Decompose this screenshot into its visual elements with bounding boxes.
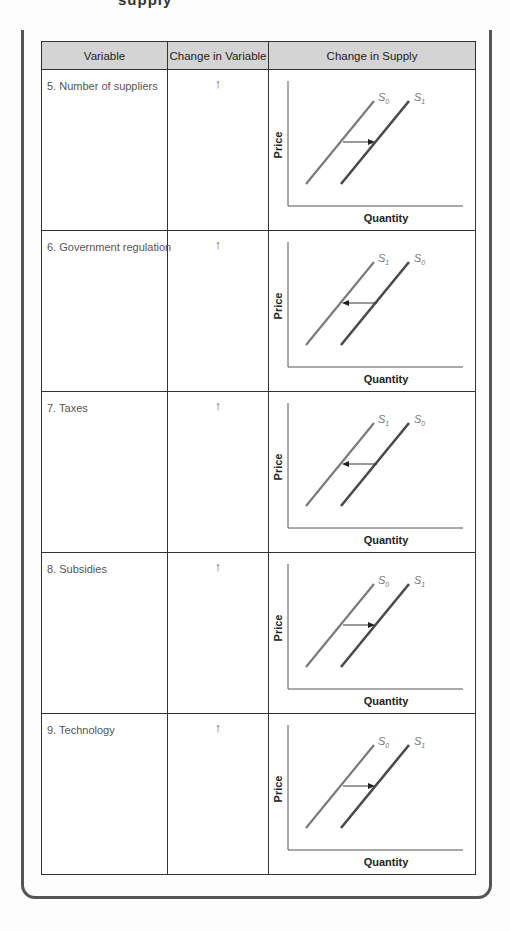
right-curve-label: S1 (414, 574, 425, 588)
supply-shift-graph: Price Quantity S0 S1 (269, 70, 475, 230)
right-curve-label: S0 (414, 252, 425, 266)
change-cell: ↑ (168, 231, 269, 392)
x-axis-label: Quantity (364, 856, 409, 868)
shift-arrow-icon (342, 461, 377, 467)
table-row-6: 6. Government regulation ↑ Price Quantit… (42, 231, 476, 392)
y-axis-label: Price (272, 776, 284, 803)
change-cell: ↑ (168, 714, 269, 875)
supply-shift-graph: Price Quantity S0 S1 (269, 714, 475, 874)
supply-graph-cell: Price Quantity S1 S0 (269, 231, 476, 392)
variable-label: 9. Technology (42, 714, 167, 736)
variable-cell: 9. Technology (42, 714, 168, 875)
up-arrow-icon: ↑ (168, 714, 268, 735)
supply-shift-graph: Price Quantity S1 S0 (269, 231, 475, 391)
table-row-9: 9. Technology ↑ Price Quantity S0 S1 (42, 714, 476, 875)
column-header-variable: Variable (42, 42, 168, 70)
shift-arrow-icon (343, 622, 375, 628)
variable-cell: 8. Subsidies (42, 553, 168, 714)
shift-arrow-icon (342, 300, 377, 306)
x-axis-label: Quantity (364, 534, 409, 546)
supply-graph-cell: Price Quantity S0 S1 (269, 553, 476, 714)
supply-shift-graph: Price Quantity S0 S1 (269, 553, 475, 713)
y-axis-label: Price (272, 454, 284, 481)
variable-label: 7. Taxes (42, 392, 167, 414)
up-arrow-icon: ↑ (168, 231, 268, 252)
table-row-7: 7. Taxes ↑ Price Quantity S1 S0 (42, 392, 476, 553)
variable-cell: 6. Government regulation (42, 231, 168, 392)
right-curve-label: S1 (414, 735, 425, 749)
up-arrow-icon: ↑ (168, 392, 268, 413)
variable-label: 8. Subsidies (42, 553, 167, 575)
supply-graph-cell: Price Quantity S0 S1 (269, 70, 476, 231)
column-header-change-in-variable: Change in Variable (168, 42, 269, 70)
right-curve-label: S0 (414, 413, 425, 427)
cutoff-heading: supply (118, 0, 172, 8)
right-curve-label: S1 (414, 91, 425, 105)
shift-arrow-icon (343, 783, 375, 789)
left-curve-label: S1 (378, 413, 389, 427)
supply-shift-graph: Price Quantity S1 S0 (269, 392, 475, 552)
table-header-row: Variable Change in Variable Change in Su… (42, 42, 476, 70)
x-axis-label: Quantity (364, 695, 409, 707)
change-cell: ↑ (168, 553, 269, 714)
left-curve-label: S1 (378, 252, 389, 266)
x-axis-label: Quantity (364, 212, 409, 224)
variable-cell: 7. Taxes (42, 392, 168, 553)
change-cell: ↑ (168, 70, 269, 231)
supply-graph-cell: Price Quantity S1 S0 (269, 392, 476, 553)
y-axis-label: Price (272, 132, 284, 159)
column-header-change-in-supply: Change in Supply (269, 42, 476, 70)
up-arrow-icon: ↑ (168, 553, 268, 574)
y-axis-label: Price (272, 615, 284, 642)
variable-label: 6. Government regulation (42, 231, 167, 253)
variable-label: 5. Number of suppliers (42, 70, 167, 92)
left-curve-label: S0 (378, 91, 389, 105)
left-curve-label: S0 (378, 574, 389, 588)
textbook-page: supply Variable Change in Variable Chang… (0, 0, 510, 931)
x-axis-label: Quantity (364, 373, 409, 385)
variable-cell: 5. Number of suppliers (42, 70, 168, 231)
up-arrow-icon: ↑ (168, 70, 268, 91)
supply-graph-cell: Price Quantity S0 S1 (269, 714, 476, 875)
shift-arrow-icon (343, 139, 375, 145)
table-row-8: 8. Subsidies ↑ Price Quantity S0 S1 (42, 553, 476, 714)
supply-shifters-table: Variable Change in Variable Change in Su… (41, 41, 476, 875)
change-cell: ↑ (168, 392, 269, 553)
table-row-5: 5. Number of suppliers ↑ Price Quantity … (42, 70, 476, 231)
left-curve-label: S0 (378, 735, 389, 749)
y-axis-label: Price (272, 293, 284, 320)
